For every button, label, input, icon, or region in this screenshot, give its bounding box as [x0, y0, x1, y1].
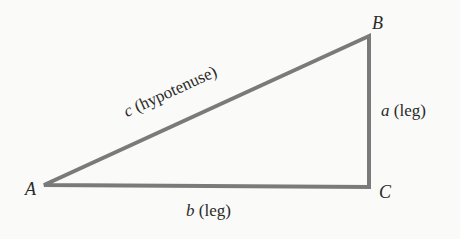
vertex-label-a: A	[25, 180, 36, 198]
triangle-outline	[44, 36, 369, 187]
side-label-b: b (leg)	[186, 202, 231, 219]
side-desc-b: (leg)	[199, 201, 231, 220]
side-desc-a: (leg)	[394, 101, 426, 120]
right-triangle-diagram: A B C a (leg) b (leg) c (hypotenuse)	[0, 0, 460, 239]
side-label-a: a (leg)	[381, 102, 426, 119]
side-var-a: a	[381, 101, 390, 120]
side-var-b: b	[186, 201, 195, 220]
vertex-label-b: B	[372, 14, 383, 32]
vertex-label-c: C	[379, 183, 391, 201]
